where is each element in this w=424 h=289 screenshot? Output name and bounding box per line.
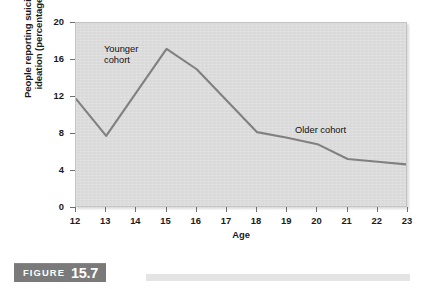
annotation-younger-cohort: Younger cohort [104, 44, 162, 66]
x-tick-mark [407, 207, 408, 212]
x-tick-label: 17 [215, 216, 237, 225]
figure-container: People reporting suicidal ideation (perc… [0, 0, 424, 289]
y-tick-label: 8 [44, 128, 64, 137]
y-tick-label: 0 [44, 202, 64, 211]
y-tick-label: 12 [44, 91, 64, 100]
x-tick-mark [256, 207, 257, 212]
x-tick-label: 15 [155, 216, 177, 225]
annotation-older-cohort: Older cohort [295, 125, 379, 136]
figure-caption-bar: FIGURE 15.7 [14, 263, 106, 282]
figure-caption-box: FIGURE 15.7 [14, 263, 106, 282]
x-tick-mark [135, 207, 136, 212]
x-tick-mark [316, 207, 317, 212]
x-tick-label: 12 [64, 216, 86, 225]
x-tick-label: 23 [396, 216, 418, 225]
y-tick-label: 16 [44, 54, 64, 63]
x-tick-mark [196, 207, 197, 212]
x-tick-label: 14 [124, 216, 146, 225]
x-tick-label: 20 [305, 216, 327, 225]
y-tick-mark [70, 133, 75, 134]
x-tick-label: 19 [275, 216, 297, 225]
y-tick-mark [70, 170, 75, 171]
x-tick-mark [286, 207, 287, 212]
y-tick-mark [70, 59, 75, 60]
figure-caption-number: 15.7 [71, 265, 98, 281]
figure-caption-word: FIGURE [23, 267, 65, 278]
y-tick-mark [70, 22, 75, 23]
y-tick-label: 20 [44, 17, 64, 26]
x-tick-label: 18 [245, 216, 267, 225]
x-tick-mark [105, 207, 106, 212]
x-tick-label: 22 [366, 216, 388, 225]
x-tick-mark [75, 207, 76, 212]
x-tick-mark [226, 207, 227, 212]
x-tick-mark [166, 207, 167, 212]
x-tick-label: 13 [94, 216, 116, 225]
x-tick-label: 21 [336, 216, 358, 225]
x-axis-title: Age [75, 229, 407, 240]
y-tick-label: 4 [44, 165, 64, 174]
figure-caption-rule [146, 274, 410, 281]
x-tick-label: 16 [185, 216, 207, 225]
x-tick-mark [347, 207, 348, 212]
x-tick-mark [377, 207, 378, 212]
y-tick-mark [70, 96, 75, 97]
